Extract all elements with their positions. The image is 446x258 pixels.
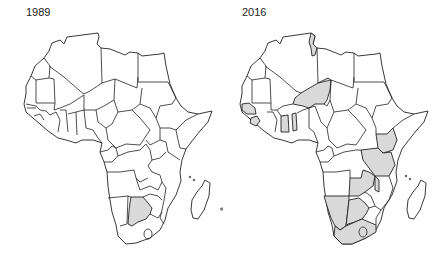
country-madagascar	[191, 180, 210, 219]
island-comoros	[193, 179, 195, 181]
africa-map-2016	[223, 0, 446, 258]
island-comoros	[189, 176, 191, 178]
africa-map-1989	[0, 0, 223, 258]
country-madagascar	[407, 180, 426, 219]
country-ghana	[281, 115, 289, 132]
island-comoros	[405, 175, 407, 177]
country-namibia	[324, 196, 349, 230]
map-panel-2016: 2016	[223, 0, 446, 258]
country-benin	[292, 113, 297, 131]
island-comoros	[409, 178, 411, 180]
africa-outline	[24, 33, 212, 244]
map-panel-1989: 1989	[0, 0, 223, 258]
